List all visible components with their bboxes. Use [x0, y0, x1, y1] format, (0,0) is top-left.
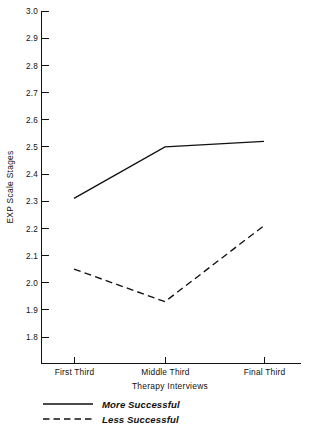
x-axis-tick-labels: First Third Middle Third Final Third	[55, 367, 286, 377]
y-axis-title: EXP Scale Stages	[5, 150, 15, 223]
legend-label-less-successful: Less Successful	[102, 414, 179, 425]
y-tick-label: 2.4	[26, 170, 38, 179]
x-tick-label-final-third: Final Third	[244, 367, 286, 377]
y-tick-label: 1.9	[26, 306, 38, 315]
y-tick-label: 2.7	[26, 89, 38, 98]
y-tick-label: 2.0	[26, 279, 38, 288]
y-tick-label: 1.8	[26, 333, 38, 342]
y-tick-label: 2.9	[26, 34, 38, 43]
chart-background	[0, 0, 310, 430]
y-tick-label: 2.6	[26, 116, 38, 125]
exp-scale-line-chart: 1.8 1.9 2.0 2.1 2.2 2.3 2.4 2.5 2.6 2.7 …	[0, 0, 310, 430]
y-tick-label: 3.0	[26, 7, 38, 16]
y-tick-label: 2.5	[26, 143, 38, 152]
chart-canvas: 1.8 1.9 2.0 2.1 2.2 2.3 2.4 2.5 2.6 2.7 …	[0, 0, 310, 430]
x-tick-label-first-third: First Third	[55, 367, 95, 377]
y-tick-label: 2.3	[26, 197, 38, 206]
x-axis-title: Therapy Interviews	[132, 381, 208, 391]
x-tick-label-middle-third: Middle Third	[141, 367, 189, 377]
y-tick-label: 2.8	[26, 62, 38, 71]
legend-label-more-successful: More Successful	[102, 399, 180, 410]
y-tick-label: 2.2	[26, 225, 38, 234]
y-tick-label: 2.1	[26, 252, 38, 261]
